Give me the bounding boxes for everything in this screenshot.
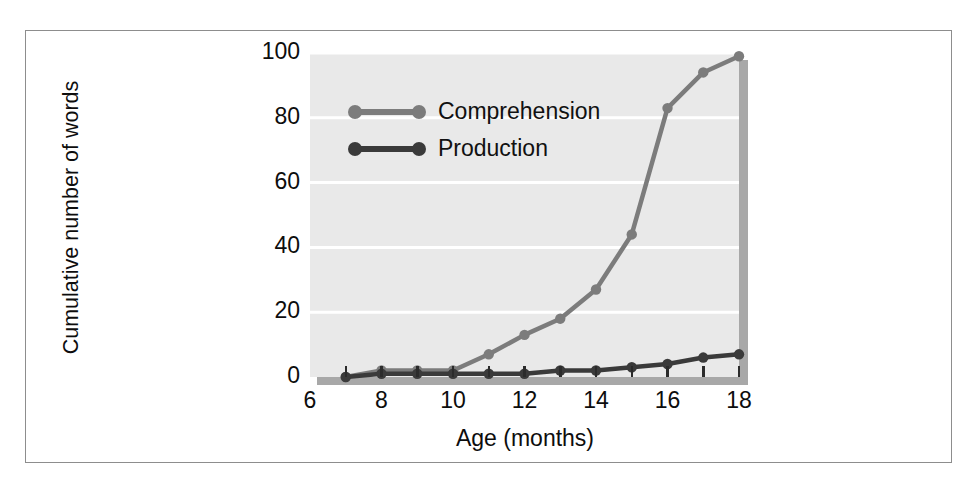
y-tick-label: 60 bbox=[240, 168, 300, 195]
legend-item-production: Production bbox=[348, 135, 548, 162]
legend-item-comprehension: Comprehension bbox=[348, 98, 600, 125]
legend-swatch-icon bbox=[348, 103, 426, 121]
y-tick-label: 40 bbox=[240, 232, 300, 259]
x-tick-mark bbox=[416, 366, 419, 377]
x-tick-mark bbox=[345, 366, 348, 377]
x-tick-mark bbox=[595, 366, 598, 377]
x-tick-label: 16 bbox=[643, 387, 693, 414]
data-point bbox=[519, 330, 529, 340]
legend-label: Production bbox=[438, 135, 548, 162]
x-tick-mark bbox=[452, 366, 455, 377]
x-tick-mark bbox=[666, 366, 669, 377]
x-tick-label: 8 bbox=[357, 387, 407, 414]
series-line-production bbox=[346, 354, 739, 377]
y-tick-label: 0 bbox=[240, 362, 300, 389]
data-point bbox=[698, 67, 708, 77]
data-point bbox=[627, 229, 637, 239]
data-point bbox=[698, 352, 708, 362]
data-point bbox=[591, 284, 601, 294]
x-tick-mark bbox=[380, 366, 383, 377]
x-tick-mark bbox=[702, 366, 705, 377]
data-point bbox=[484, 349, 494, 359]
data-point bbox=[734, 349, 744, 359]
data-point bbox=[734, 51, 744, 61]
legend-swatch-icon bbox=[348, 140, 426, 158]
x-tick-mark bbox=[631, 366, 634, 377]
legend-label: Comprehension bbox=[438, 98, 600, 125]
x-tick-label: 14 bbox=[571, 387, 621, 414]
x-tick-label: 18 bbox=[714, 387, 764, 414]
x-tick-label: 10 bbox=[428, 387, 478, 414]
x-tick-label: 6 bbox=[285, 387, 335, 414]
x-tick-mark bbox=[738, 366, 741, 377]
data-point bbox=[555, 313, 565, 323]
x-tick-label: 12 bbox=[500, 387, 550, 414]
x-tick-mark bbox=[488, 366, 491, 377]
y-tick-label: 20 bbox=[240, 297, 300, 324]
y-tick-label: 80 bbox=[240, 103, 300, 130]
y-tick-label: 100 bbox=[240, 38, 300, 65]
x-tick-mark bbox=[523, 366, 526, 377]
y-axis-title: Cumulative number of words bbox=[59, 53, 84, 383]
x-axis-title: Age (months) bbox=[310, 425, 740, 452]
data-point bbox=[662, 103, 672, 113]
x-tick-mark bbox=[559, 366, 562, 377]
chart-figure: Cumulative number of words 020406080100 … bbox=[0, 0, 980, 489]
